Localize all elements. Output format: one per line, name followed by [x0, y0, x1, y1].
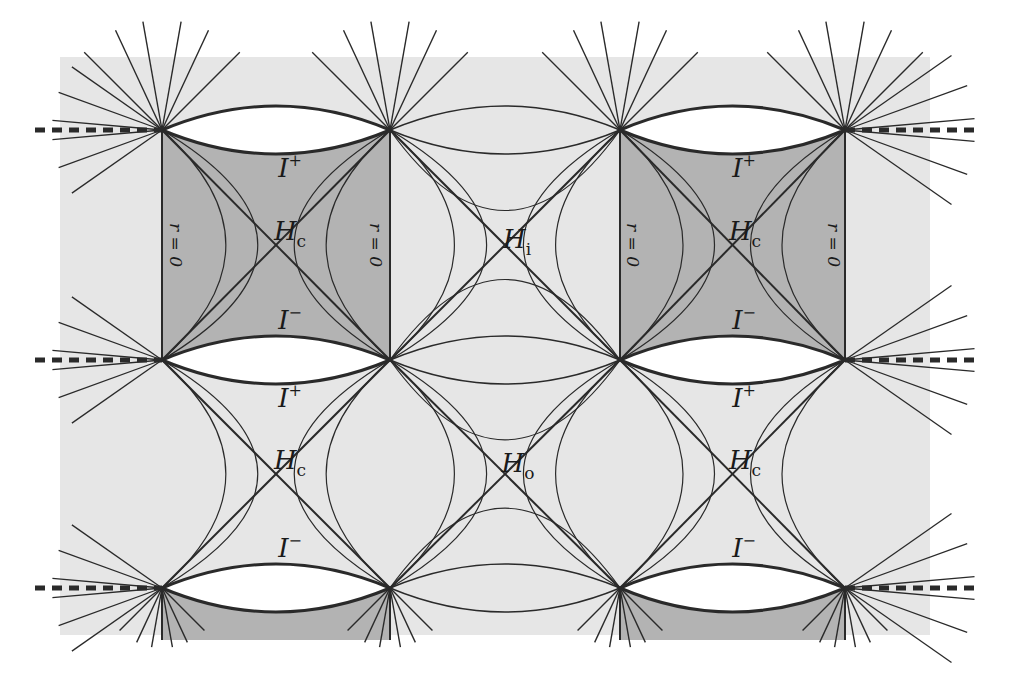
- scri-plus-label: I+: [732, 155, 756, 182]
- r-zero-label: r = 0: [623, 223, 643, 267]
- scri-minus-label: I−: [732, 535, 756, 562]
- r-zero-label: r = 0: [366, 223, 386, 267]
- horizon-i-label: Hi: [503, 226, 531, 257]
- horizon-c-label: Hc: [274, 447, 306, 478]
- penrose-diagram: [0, 0, 1010, 678]
- horizon-c-label: Hc: [729, 447, 761, 478]
- scri-minus-label: I−: [732, 307, 756, 334]
- horizon-c-label: Hc: [729, 218, 761, 249]
- r-zero-label: r = 0: [166, 223, 186, 267]
- scri-minus-label: I−: [278, 307, 302, 334]
- horizon-c-label: Hc: [274, 218, 306, 249]
- scri-minus-label: I−: [278, 535, 302, 562]
- horizon-o-label: Ho: [502, 450, 535, 481]
- scri-plus-label: I+: [278, 155, 302, 182]
- scri-plus-label: I+: [278, 385, 302, 412]
- scri-plus-label: I+: [732, 385, 756, 412]
- r-zero-label: r = 0: [824, 223, 844, 267]
